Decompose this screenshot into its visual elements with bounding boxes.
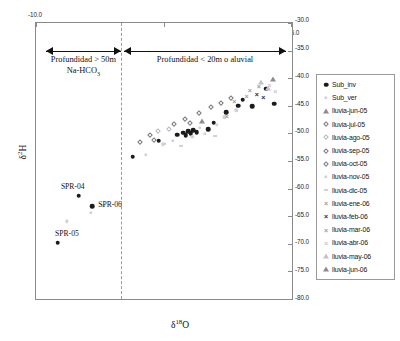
plot-area: Profundidad > 50mNa-HCO3Profundidad < 20… xyxy=(35,22,293,300)
y-tick-label: -40.0 xyxy=(295,72,309,79)
y-tickmark xyxy=(288,189,292,190)
y-axis-title-delta: δ xyxy=(18,155,28,159)
marker-open-triangle-datapoint xyxy=(270,77,276,82)
marker-x-datapoint: × xyxy=(225,113,229,120)
legend-symbol xyxy=(320,184,332,197)
legend-symbol xyxy=(320,91,332,104)
marker-open-diamond-datapoint xyxy=(155,128,161,134)
legend-label: lluvia-dic-05 xyxy=(332,187,367,194)
marker-x-datapoint: × xyxy=(232,97,236,104)
marker-light-dot xyxy=(324,96,327,99)
marker-filled-circle-datapoint xyxy=(212,121,217,126)
legend-item-lluvia-oct-05[interactable]: lluvia-oct-05 xyxy=(320,157,392,170)
marker-light-dot-datapoint xyxy=(163,142,166,145)
marker-filled-circle-datapoint xyxy=(191,128,196,133)
left-zone-line2: Na-HCO3 xyxy=(67,66,100,75)
legend-item-lluvia-ago-05[interactable]: lluvia-ago-05 xyxy=(320,131,392,144)
legend-item-lluvia-jun-05[interactable]: lluvia-jun-05 xyxy=(320,104,392,117)
legend-item-lluvia-feb-06[interactable]: ×lluvia-feb-06 xyxy=(320,210,392,223)
marker-dash xyxy=(324,190,328,191)
y-tick-label: -55.0 xyxy=(295,155,309,162)
legend-symbol xyxy=(320,118,332,131)
y-tickmark xyxy=(288,161,292,162)
marker-open-diamond-datapoint xyxy=(218,100,224,106)
y-tickmark xyxy=(288,271,292,272)
right-zone-label: Profundidad < 20m o aluvial xyxy=(130,54,280,65)
legend-item-lluvia-jul-05[interactable]: lluvia-jul-05 xyxy=(320,118,392,131)
marker-filled-circle-datapoint xyxy=(181,131,186,136)
marker-filled-circle-datapoint xyxy=(175,132,180,137)
legend-symbol xyxy=(320,249,332,262)
marker-x-datapoint: × xyxy=(261,94,265,101)
y-tickmark xyxy=(288,51,292,52)
legend-item-lluvia-nov-05[interactable]: lluvia-nov-05 xyxy=(320,170,392,183)
y-tickmark xyxy=(288,299,292,300)
x-tickmark xyxy=(36,23,37,27)
legend-item-lluvia-ene-06[interactable]: ×lluvia-ene-06 xyxy=(320,197,392,210)
marker-light-dot-datapoint xyxy=(161,143,164,146)
x-axis-title-element: O xyxy=(182,320,189,330)
marker-open-triangle xyxy=(323,254,329,259)
marker-x-datapoint: × xyxy=(268,81,272,88)
legend-label: lluvia-feb-06 xyxy=(332,213,368,220)
marker-open-diamond-datapoint xyxy=(147,132,153,138)
legend-item-lluvia-jun-06[interactable]: lluvia-jun-06 xyxy=(320,263,392,276)
legend-label: lluvia-oct-05 xyxy=(332,160,367,167)
y-tick-label: -45.0 xyxy=(295,100,309,107)
legend-item-lluvia-dic-05[interactable]: lluvia-dic-05 xyxy=(320,184,392,197)
legend-symbol xyxy=(320,131,332,144)
y-tick-label: -50.0 xyxy=(295,127,309,134)
legend-item-sub-inv[interactable]: Sub_inv xyxy=(320,78,392,91)
y-axis-title-element: H xyxy=(18,145,28,152)
marker-filled-circle-datapoint xyxy=(272,101,277,106)
legend-item-sub-ver[interactable]: Sub_ver xyxy=(320,91,392,104)
legend-symbol: × xyxy=(320,210,332,223)
legend-label: lluvia-ago-05 xyxy=(332,134,370,141)
marker-filled-circle-datapoint xyxy=(194,130,199,135)
marker-filled-circle-datapoint xyxy=(250,104,255,109)
marker-open-triangle xyxy=(323,108,329,113)
marker-open-triangle-datapoint xyxy=(265,86,271,91)
legend-item-lluvia-abr-06[interactable]: ×lluvia-abr-06 xyxy=(320,236,392,249)
marker-filled-circle-datapoint xyxy=(224,110,229,115)
y-tick-label: -80.0 xyxy=(295,294,309,301)
marker-dash-datapoint xyxy=(213,136,217,137)
legend-item-lluvia-may-06[interactable]: lluvia-may-06 xyxy=(320,249,392,262)
marker-dash-datapoint xyxy=(179,145,183,146)
marker-filled-circle-datapoint xyxy=(157,138,162,143)
marker-open-diamond xyxy=(323,121,329,127)
sample-label: SPR-04 xyxy=(61,182,85,191)
x-tickmark xyxy=(164,23,165,27)
marker-filled-circle-datapoint xyxy=(264,86,269,91)
legend-symbol xyxy=(320,170,332,183)
marker-filled-circle-datapoint xyxy=(189,131,194,136)
right-zone-arrow xyxy=(124,51,285,52)
legend-label: lluvia-jun-05 xyxy=(332,107,367,114)
marker-open-diamond-datapoint xyxy=(208,104,214,110)
marker-light-dot-datapoint xyxy=(235,108,238,111)
legend-label: lluvia-ene-06 xyxy=(332,200,370,207)
marker-light-dot-datapoint xyxy=(203,132,206,135)
legend-symbol xyxy=(320,78,332,91)
marker-x-datapoint: × xyxy=(257,82,261,89)
legend-item-lluvia-sep-05[interactable]: lluvia-sep-05 xyxy=(320,144,392,157)
marker-light-dot-datapoint xyxy=(190,135,193,138)
left-zone-label: Profundidad > 50mNa-HCO3 xyxy=(23,54,143,80)
y-tick-label: -70.0 xyxy=(295,238,309,245)
marker-x: × xyxy=(324,239,328,246)
legend-symbol xyxy=(320,144,332,157)
legend-label: lluvia-nov-05 xyxy=(332,173,369,180)
marker-light-dot-datapoint xyxy=(222,116,225,119)
legend-item-lluvia-mar-06[interactable]: ×lluvia-mar-06 xyxy=(320,223,392,236)
isotope-scatter-chart: -10.0 -8.0 -6.0 -30.0 -35.0 -40.0 -45.0 … xyxy=(0,0,400,341)
y-tick-label: -65.0 xyxy=(295,211,309,218)
legend-symbol: × xyxy=(320,197,332,210)
legend: Sub_invSub_verlluvia-jun-05lluvia-jul-05… xyxy=(316,74,395,280)
marker-filled-circle xyxy=(324,82,329,87)
legend-label: lluvia-sep-05 xyxy=(332,147,369,154)
legend-symbol xyxy=(320,157,332,170)
marker-open-diamond xyxy=(323,161,329,167)
marker-filled-circle-datapoint xyxy=(236,104,241,109)
legend-symbol: × xyxy=(320,236,332,249)
legend-label: Sub_inv xyxy=(332,81,356,88)
